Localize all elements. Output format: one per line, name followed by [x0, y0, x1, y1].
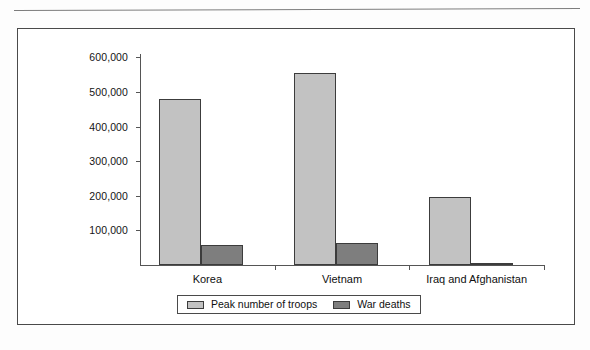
bar-deaths	[336, 243, 378, 265]
page-horizontal-rule	[14, 8, 580, 11]
scanned-page-background: 600,000500,000400,000300,000200,000100,0…	[0, 0, 590, 350]
bar-deaths	[471, 263, 513, 265]
figure-frame: 600,000500,000400,000300,000200,000100,0…	[17, 28, 575, 325]
x-axis-category-label: Iraq and Afghanistan	[409, 273, 544, 286]
bar-troops	[294, 73, 336, 265]
legend-swatch-icon	[187, 301, 204, 309]
x-axis-category-label: Korea	[140, 273, 275, 286]
y-axis-tick-label: 600,000	[64, 52, 128, 62]
y-axis-tick-label: 500,000	[64, 87, 128, 97]
y-axis-tick-mark	[136, 127, 141, 128]
y-axis-tick: 400,000	[64, 122, 128, 132]
y-axis-tick-label: 200,000	[64, 191, 128, 201]
y-axis-tick: 600,000	[64, 52, 128, 62]
bar-deaths	[201, 245, 243, 265]
legend-label: Peak number of troops	[211, 299, 317, 310]
y-axis-tick-mark	[136, 92, 141, 93]
y-axis-line	[140, 54, 141, 266]
y-axis-tick-mark	[136, 161, 141, 162]
bar-chart: 600,000500,000400,000300,000200,000100,0…	[18, 29, 576, 326]
y-axis-tick-label: 400,000	[64, 122, 128, 132]
cut-off-text-trace	[55, 0, 355, 4]
legend-label: War deaths	[357, 299, 410, 310]
y-axis-tick: 200,000	[64, 191, 128, 201]
x-axis-tick-mark	[275, 265, 276, 270]
y-axis-tick: 100,000	[64, 225, 128, 235]
y-axis-tick-mark	[136, 230, 141, 231]
bar-troops	[159, 99, 201, 265]
x-axis-category-label: Vietnam	[275, 273, 410, 286]
y-axis-tick-mark	[136, 196, 141, 197]
y-axis-tick-label: 300,000	[64, 156, 128, 166]
y-axis-tick-mark	[136, 57, 141, 58]
y-axis-tick-label: 100,000	[64, 225, 128, 235]
chart-legend: Peak number of troopsWar deaths	[177, 295, 421, 314]
y-axis-tick: 500,000	[64, 87, 128, 97]
legend-item: War deaths	[333, 299, 410, 310]
legend-item: Peak number of troops	[187, 299, 317, 310]
x-axis-line	[140, 265, 544, 266]
legend-swatch-icon	[333, 301, 350, 309]
y-axis-tick: 300,000	[64, 156, 128, 166]
bar-troops	[429, 197, 471, 265]
x-axis-tick-mark	[409, 265, 410, 270]
x-axis-tick-mark	[544, 265, 545, 270]
